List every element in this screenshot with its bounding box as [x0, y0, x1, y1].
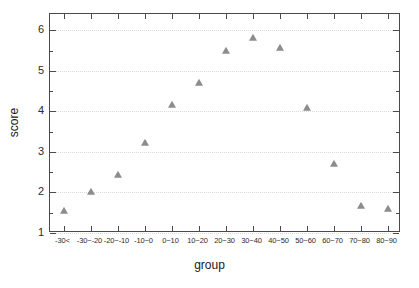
- y-axis-tick: [50, 111, 56, 112]
- x-axis-tick: [361, 14, 362, 19]
- y-axis-minor-tick: [50, 91, 53, 92]
- data-point-marker: [276, 43, 284, 50]
- gridline: [50, 192, 399, 193]
- y-axis-minor-tick: [50, 213, 53, 214]
- x-axis-tick: [64, 226, 65, 231]
- y-axis-minor-tick: [50, 30, 53, 31]
- y-axis-title: score: [6, 13, 22, 232]
- x-axis-tick: [172, 14, 173, 19]
- data-point-marker: [114, 171, 122, 178]
- x-axis-tick-label: 60~70: [322, 236, 343, 245]
- x-axis-tick: [145, 226, 146, 231]
- data-point-marker: [249, 34, 257, 41]
- x-axis-tick-label: 80~90: [376, 236, 397, 245]
- y-axis-minor-tick: [396, 30, 399, 31]
- x-axis-tick: [118, 226, 119, 231]
- y-axis-tick: [393, 192, 399, 193]
- data-point-marker: [330, 160, 338, 167]
- data-point-marker: [141, 139, 149, 146]
- gridline: [50, 111, 399, 112]
- x-axis-tick: [307, 226, 308, 231]
- x-axis-tick: [91, 226, 92, 231]
- data-point-marker: [87, 188, 95, 195]
- y-axis-tick: [393, 152, 399, 153]
- x-axis-tick: [388, 226, 389, 231]
- data-point-marker: [222, 46, 230, 53]
- x-axis-tick: [280, 226, 281, 231]
- gridline: [50, 30, 399, 31]
- x-axis-tick: [307, 14, 308, 19]
- x-axis-tick: [280, 14, 281, 19]
- y-axis-minor-tick: [396, 51, 399, 52]
- y-axis-tick: [50, 152, 56, 153]
- gridline: [50, 71, 399, 72]
- x-axis-title: group: [0, 258, 419, 272]
- x-axis-tick: [145, 14, 146, 19]
- x-axis-tick: [334, 226, 335, 231]
- x-axis-tick: [388, 14, 389, 19]
- x-axis-tick-label: 40~50: [268, 236, 289, 245]
- y-axis-tick: [393, 111, 399, 112]
- y-axis-tick-label: 2: [20, 185, 44, 197]
- x-axis-tick: [91, 14, 92, 19]
- y-axis-tick: [393, 233, 399, 234]
- x-axis-tick: [226, 226, 227, 231]
- y-axis-tick-label: 3: [20, 145, 44, 157]
- data-point-marker: [384, 204, 392, 211]
- x-axis-tick-label: -30~-20: [77, 236, 102, 245]
- x-axis-tick: [334, 14, 335, 19]
- y-axis-minor-tick: [396, 172, 399, 173]
- y-axis-minor-tick: [50, 172, 53, 173]
- y-axis-tick-label: 5: [20, 64, 44, 76]
- data-point-marker: [357, 202, 365, 209]
- y-axis-tick: [50, 233, 56, 234]
- x-axis-tick-label: 0~10: [162, 236, 179, 245]
- x-axis-tick: [199, 226, 200, 231]
- y-axis-tick-label: 6: [20, 23, 44, 35]
- chart-figure: score 123456 -30<-30~-20-20~-10-10~00~10…: [0, 0, 419, 288]
- x-axis-tick: [226, 14, 227, 19]
- x-axis-tick-label: 20~30: [214, 236, 235, 245]
- y-axis-tick-label: 4: [20, 104, 44, 116]
- y-axis-minor-tick: [396, 213, 399, 214]
- x-axis-tick-label: -20~-10: [104, 236, 129, 245]
- x-axis-tick: [253, 226, 254, 231]
- gridline: [50, 152, 399, 153]
- x-axis-tick: [199, 14, 200, 19]
- y-axis-minor-tick: [50, 51, 53, 52]
- x-axis-tick-label: -10~0: [134, 236, 153, 245]
- plot-area: [49, 13, 400, 232]
- data-point-marker: [195, 79, 203, 86]
- y-axis-tick: [393, 71, 399, 72]
- y-axis-minor-tick: [50, 132, 53, 133]
- x-axis-tick-label: 70~80: [349, 236, 370, 245]
- x-axis-tick: [253, 14, 254, 19]
- x-axis-tick-label: 30~40: [241, 236, 262, 245]
- y-axis-tick: [50, 71, 56, 72]
- y-axis-tick: [50, 192, 56, 193]
- x-axis-tick: [361, 226, 362, 231]
- y-axis-tick-label: 1: [20, 226, 44, 238]
- x-axis-tick: [172, 226, 173, 231]
- gridline: [50, 233, 399, 234]
- x-axis-tick-label: -30<: [55, 236, 70, 245]
- y-axis-minor-tick: [396, 91, 399, 92]
- y-axis-minor-tick: [396, 132, 399, 133]
- x-axis-tick: [118, 14, 119, 19]
- x-axis-tick-label: 50~60: [295, 236, 316, 245]
- data-point-marker: [60, 206, 68, 213]
- x-axis-tick-label: 10~20: [187, 236, 208, 245]
- data-point-marker: [303, 104, 311, 111]
- x-axis-tick: [64, 14, 65, 19]
- data-point-marker: [168, 101, 176, 108]
